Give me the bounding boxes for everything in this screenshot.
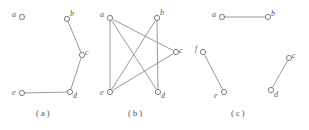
graph-vertex-c-c xyxy=(286,55,291,60)
vertex-label-c-a: a xyxy=(212,11,216,19)
graph-vertex-c-b xyxy=(265,14,270,19)
graph-figure: abcde( a )abcde( b )abcdef( c ) xyxy=(0,0,309,130)
vertex-label-c-f: f xyxy=(195,45,197,53)
graph-canvas-c xyxy=(0,0,309,130)
graph-panel-c: abcdef( c ) xyxy=(0,0,309,130)
graph-vertex-c-a xyxy=(219,14,224,19)
vertex-label-c-d: d xyxy=(274,91,278,99)
vertex-label-c-e: e xyxy=(214,92,218,100)
panel-caption-c: ( c ) xyxy=(231,108,245,118)
graph-vertex-c-d xyxy=(268,87,273,92)
vertex-label-c-c: c xyxy=(292,52,296,60)
graph-vertex-c-e xyxy=(221,89,226,94)
graph-edge-c-fe xyxy=(204,55,222,90)
graph-vertex-c-f xyxy=(200,49,205,54)
vertex-label-c-b: b xyxy=(271,10,275,18)
graph-edge-c-cd xyxy=(272,61,287,88)
